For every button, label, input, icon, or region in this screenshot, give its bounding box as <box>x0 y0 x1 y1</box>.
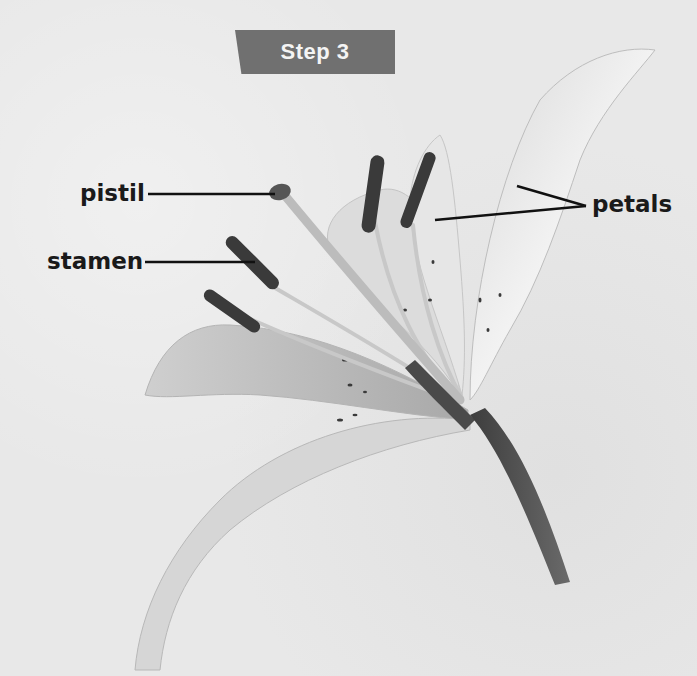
step-banner: Step 3 <box>235 30 395 74</box>
stem <box>470 408 570 585</box>
diagram-canvas: Step 3 pistil stamen petals <box>0 0 697 676</box>
petal-lower <box>135 418 470 670</box>
step-title: Step 3 <box>280 39 349 65</box>
stamen-label: stamen <box>47 250 143 273</box>
petals-label: petals <box>592 193 672 216</box>
petal-right-tall <box>470 49 655 400</box>
lily-illustration <box>0 0 697 676</box>
pistil-label: pistil <box>80 182 145 205</box>
